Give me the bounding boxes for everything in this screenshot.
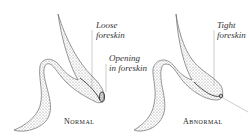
label-tight-foreskin: Tight foreskin — [217, 20, 246, 40]
label-opening-line1: Opening — [109, 53, 147, 63]
caption-normal: Normal — [64, 117, 94, 126]
label-loose-foreskin-line2: foreskin — [96, 30, 125, 40]
label-opening-line2: in foreskin — [109, 63, 147, 73]
abnormal-illustration — [134, 14, 223, 131]
caption-abnormal: Abnormal — [183, 117, 223, 126]
foreskin-opening — [100, 92, 105, 102]
label-loose-foreskin-line1: Loose — [96, 20, 125, 30]
label-tight-line2: foreskin — [217, 30, 246, 40]
normal-illustration — [14, 14, 105, 131]
label-tight-line1: Tight — [217, 20, 246, 30]
label-loose-foreskin: Loose foreskin — [96, 20, 125, 40]
label-opening-in-foreskin: Opening in foreskin — [109, 53, 147, 73]
leader-line-offscreen — [223, 98, 248, 112]
tight-opening — [219, 94, 223, 98]
